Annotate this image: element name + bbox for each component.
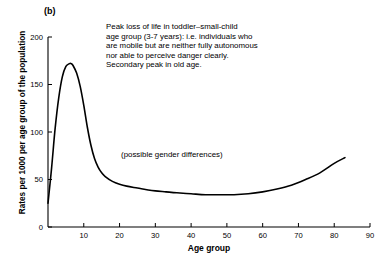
y-tick-label: 200 [30,33,43,42]
y-tick-label: 100 [30,128,43,137]
y-tick-label: 50 [35,175,43,184]
x-tick-label: 70 [294,231,302,240]
x-tick-label: 10 [80,231,88,240]
x-axis-ticks: 102030405060708090 [80,223,375,240]
chart-axes [48,37,370,227]
chart-svg: 102030405060708090 050100150200 [0,0,383,265]
x-tick-label: 90 [366,231,374,240]
data-curve [48,63,345,203]
x-tick-label: 80 [330,231,338,240]
y-tick-label: 150 [30,80,43,89]
x-tick-label: 50 [223,231,231,240]
y-tick-label: 0 [39,223,43,232]
x-tick-label: 20 [115,231,123,240]
x-tick-label: 40 [187,231,195,240]
figure-panel: (b) Rates per 1000 per age group of the … [0,0,383,265]
x-tick-label: 60 [258,231,266,240]
x-tick-label: 30 [151,231,159,240]
